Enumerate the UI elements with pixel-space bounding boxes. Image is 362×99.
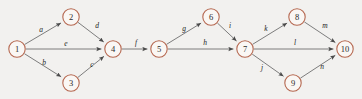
edge-label-h: h: [203, 38, 207, 47]
graph-node-6[interactable]: 6: [203, 9, 219, 25]
node-label-1: 1: [15, 44, 19, 54]
edge-label-g: g: [182, 24, 186, 33]
edges-layer: [24, 22, 335, 78]
edge-label-k: k: [264, 24, 268, 33]
directed-graph: abcdefghijklmn 12345678910: [0, 0, 362, 99]
edge-label-c: c: [90, 60, 94, 69]
edge-label-e: e: [64, 39, 68, 48]
edge-label-n: n: [320, 62, 324, 71]
edge-label-i: i: [229, 21, 231, 30]
graph-node-4[interactable]: 4: [105, 41, 121, 57]
graph-node-8[interactable]: 8: [289, 9, 305, 25]
graph-edge-n: [300, 55, 335, 78]
graph-node-5[interactable]: 5: [151, 41, 167, 57]
graph-edge-d: [78, 22, 104, 42]
nodes-layer: 12345678910: [9, 9, 353, 91]
graph-edge-j: [252, 54, 283, 76]
graph-edge-m: [304, 22, 335, 43]
node-label-5: 5: [157, 44, 161, 54]
graph-node-3[interactable]: 3: [63, 75, 79, 91]
edge-label-f: f: [135, 38, 138, 47]
node-label-2: 2: [69, 12, 73, 22]
edge-label-a: a: [39, 25, 43, 34]
node-label-7: 7: [243, 44, 247, 54]
node-label-6: 6: [209, 12, 213, 22]
node-label-9: 9: [291, 78, 295, 88]
graph-edge-i: [217, 23, 236, 41]
graph-node-7[interactable]: 7: [237, 41, 253, 57]
edge-label-j: j: [260, 63, 263, 72]
graph-edge-k: [252, 23, 287, 44]
node-label-3: 3: [69, 78, 73, 88]
edge-label-d: d: [95, 21, 99, 30]
node-label-8: 8: [295, 12, 299, 22]
graph-node-10[interactable]: 10: [337, 41, 353, 57]
diagram-canvas: abcdefghijklmn 12345678910: [0, 0, 362, 99]
graph-node-2[interactable]: 2: [63, 9, 79, 25]
edge-label-m: m: [322, 21, 328, 30]
node-label-10: 10: [341, 44, 350, 54]
edge-label-b: b: [42, 58, 46, 67]
edge-labels-layer: abcdefghijklmn: [39, 21, 328, 72]
graph-node-9[interactable]: 9: [285, 75, 301, 91]
graph-node-1[interactable]: 1: [9, 41, 25, 57]
edge-label-l: l: [294, 38, 296, 47]
